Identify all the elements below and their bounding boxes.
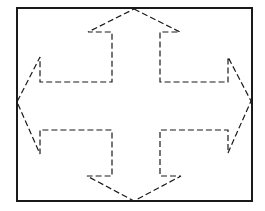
four-way-arrow-icon bbox=[17, 9, 251, 201]
frame-rectangle bbox=[17, 8, 252, 201]
four-way-arrow-diagram bbox=[0, 0, 265, 211]
